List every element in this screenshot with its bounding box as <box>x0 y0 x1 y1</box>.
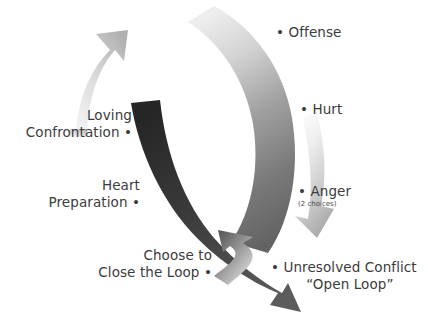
label-hurt: • Hurt <box>300 101 342 118</box>
choose-to-close-line2: Close the Loop • <box>98 264 212 280</box>
unresolved-conflict-sublabel: “Open Loop” <box>271 276 417 293</box>
outer-descending-arc-shape <box>188 6 295 253</box>
loving-confrontation-line1: Loving <box>87 107 132 123</box>
heart-preparation-line2: Preparation • <box>48 194 140 210</box>
conflict-loop-diagram: • Offense • Offense • Hurt • Anger (2 ch… <box>0 0 428 334</box>
loving-confrontation-line2: Confrontation • <box>26 124 132 140</box>
choose-to-close-line1: Choose to <box>143 247 212 263</box>
label-offense: • Offense <box>276 24 342 41</box>
label-heart-preparation: Heart Preparation • <box>48 177 140 210</box>
anger-branch-arrow-shape <box>295 112 334 238</box>
anger-sublabel: (2 choices) <box>298 200 351 209</box>
anger-main-text: • Anger <box>298 183 351 199</box>
label-loving-confrontation: Loving Confrontation • <box>26 107 132 140</box>
label-unresolved-conflict: • Unresolved Conflict “Open Loop” <box>271 259 417 292</box>
unresolved-conflict-main-text: • Unresolved Conflict <box>271 259 417 275</box>
label-anger: • Anger (2 choices) <box>298 183 351 209</box>
heart-preparation-line1: Heart <box>102 177 140 193</box>
label-choose-to-close-the-loop: Choose to Close the Loop • <box>98 247 212 280</box>
